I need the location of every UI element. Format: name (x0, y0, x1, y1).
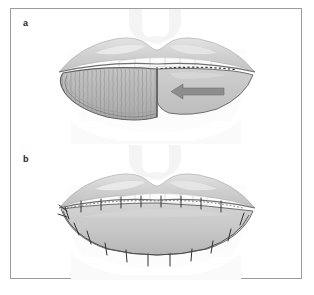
figure-frame: a (10, 8, 302, 279)
figure-panel-a: a (11, 9, 303, 144)
vermilion-flap-a (60, 67, 157, 120)
figure-panel-b: b (11, 145, 303, 280)
panel-a-illustration (11, 9, 303, 144)
panel-b-illustration (11, 145, 303, 280)
